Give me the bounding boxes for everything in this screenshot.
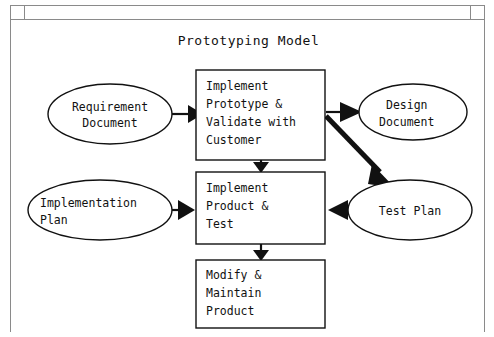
node-label-line: Document (82, 116, 137, 130)
node-label-line: Maintain (206, 286, 261, 300)
edge-plan-to-product (170, 200, 195, 220)
node-label-line: Product (206, 304, 254, 318)
node-label-line: Customer (206, 133, 261, 147)
node-label-line: Plan (40, 213, 68, 227)
node-label-line: Modify & (206, 268, 261, 282)
application-window: Prototyping Model (0, 0, 494, 337)
node-requirement-document[interactable]: Requirement Document (48, 84, 172, 144)
node-design-document[interactable]: Design Document (359, 84, 467, 140)
edge-prototype-to-product (253, 160, 269, 173)
node-label-line: Implement (206, 79, 268, 93)
window-menu-button[interactable] (10, 5, 25, 20)
node-label-line: Validate with (206, 115, 296, 129)
window-resize-button[interactable] (470, 5, 485, 20)
node-label-line: Test (206, 217, 234, 231)
node-implement-product-test[interactable]: Implement Product & Test (196, 172, 325, 244)
node-implementation-plan[interactable]: Implementation Plan (28, 180, 172, 240)
node-label-line: Requirement (72, 100, 148, 114)
window-titlebar[interactable] (10, 5, 485, 20)
node-label-line: Document (379, 115, 434, 129)
node-label-line: Test Plan (379, 204, 441, 218)
node-label-line: Product & (206, 199, 268, 213)
node-modify-maintain-product[interactable]: Modify & Maintain Product (196, 260, 325, 328)
node-label-line: Design (386, 98, 428, 112)
node-label-line: Implement (206, 181, 268, 195)
node-test-plan[interactable]: Test Plan (348, 180, 472, 240)
edge-product-to-modify (253, 244, 269, 261)
prototyping-model-diagram: Requirement Document Implement Prototype… (10, 20, 485, 332)
node-implement-prototype[interactable]: Implement Prototype & Validate with Cust… (196, 70, 325, 160)
node-label-line: Prototype & (206, 97, 282, 111)
node-label-line: Implementation (40, 196, 137, 210)
